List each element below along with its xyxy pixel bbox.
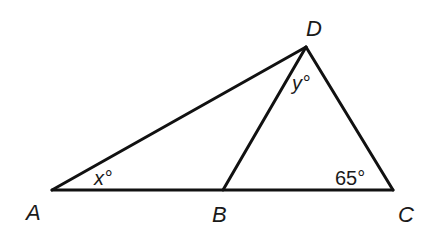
point-label-b: B	[212, 202, 227, 227]
point-label-c: C	[398, 202, 414, 227]
angle-label-65: 65°	[335, 167, 365, 189]
point-label-a: A	[24, 200, 41, 225]
angle-label-x: x°	[93, 167, 112, 189]
geometry-diagram: D A B C x° y° 65°	[0, 0, 435, 232]
segment-bd	[223, 47, 306, 190]
point-label-d: D	[306, 16, 322, 41]
angle-label-y: y°	[290, 72, 310, 94]
segment-ad	[52, 47, 306, 190]
